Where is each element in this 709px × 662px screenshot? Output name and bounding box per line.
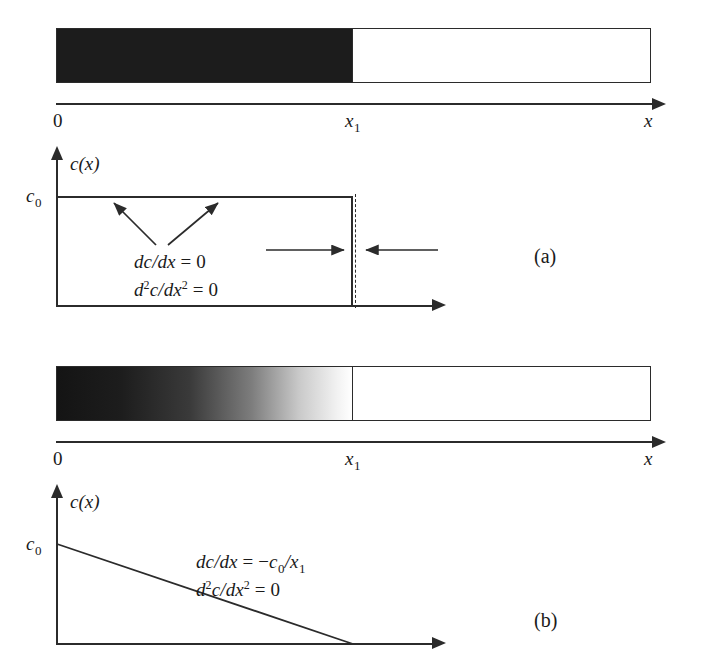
position-axis-a-x1-subscript: 1 [353, 120, 360, 135]
panel-a: 0 x1 x c(x) c0 [0, 0, 709, 340]
plot-b-eq2-equals: = [250, 579, 271, 600]
plot-a-eq2-equals: = [188, 279, 209, 300]
specimen-bar-a [56, 28, 651, 83]
plot-b-eq1-x-subscript: 1 [299, 561, 306, 576]
concentration-plot-b: c(x) c0 dc/dx = −c0/x1 d2c/dx2 = 0 (b) [56, 488, 676, 658]
plot-b-eq1-equals: = [238, 551, 259, 572]
position-axis-b-arrowhead [652, 436, 666, 448]
plot-b-eq2-rhs: 0 [270, 579, 280, 600]
plot-a-eq2-rhs: 0 [208, 279, 218, 300]
position-axis-b-end-label: x [644, 449, 652, 468]
plot-a-eq1-lhs: dc/dx [134, 251, 176, 272]
concentration-plot-a: c(x) c0 [56, 150, 676, 320]
position-axis-a-arrowhead [652, 98, 666, 110]
plot-a-eq2-d: d [134, 279, 144, 300]
position-axis-b-line [56, 441, 653, 443]
plot-a-equation-first-derivative: dc/dx = 0 [134, 248, 206, 276]
plot-a-eq2-lhs-rest: c/dx [150, 279, 182, 300]
plot-b-c0-subscript: 0 [34, 543, 41, 558]
position-axis-a: 0 x1 x [56, 103, 666, 105]
position-axis-b-origin-label: 0 [53, 449, 63, 468]
plot-b-eq1-lhs: dc/dx [196, 551, 238, 572]
plot-a-pointer-arrow-right [168, 203, 218, 245]
plot-b-equation-second-derivative: d2c/dx2 = 0 [196, 576, 280, 604]
panel-b-tag: (b) [534, 610, 557, 630]
specimen-bar-b-gradient-region [57, 367, 353, 420]
panel-a-tag: (a) [534, 246, 556, 266]
plot-b-equation-first-derivative: dc/dx = −c0/x1 [196, 548, 306, 578]
panel-b: 0 x1 x c(x) c0 dc/dx = −c0/x1 d2c/dx2 = … [0, 340, 709, 662]
position-axis-a-origin-label: 0 [53, 111, 63, 130]
specimen-bar-a-filled-region [57, 29, 353, 82]
plot-b-eq2-lhs-rest: c/dx [212, 579, 244, 600]
plot-b-eq1-c-subscript: 0 [278, 561, 285, 576]
plot-b-eq2-d: d [196, 579, 206, 600]
position-axis-b: 0 x1 x [56, 441, 666, 443]
specimen-bar-b [56, 366, 651, 421]
plot-a-c0-tick-label: c0 [26, 186, 41, 209]
position-axis-b-x1-label: x1 [345, 449, 360, 472]
position-axis-a-end-label: x [644, 111, 652, 130]
plot-a-eq1-equals: = [176, 251, 197, 272]
plot-a-equation-second-derivative: d2c/dx2 = 0 [134, 276, 218, 304]
plot-b-eq1-x: x [290, 551, 299, 572]
plot-b-eq1-sign: − [258, 551, 269, 572]
plot-a-eq1-rhs: 0 [196, 251, 206, 272]
position-axis-a-x1-label: x1 [345, 111, 360, 134]
position-axis-a-line [56, 103, 653, 105]
plot-b-c0-tick-label: c0 [26, 534, 41, 557]
plot-b-eq1-c: c [269, 551, 278, 572]
position-axis-b-x1-subscript: 1 [353, 458, 360, 473]
plot-a-pointer-arrow-left [114, 203, 156, 245]
plot-b-profile-line [56, 488, 676, 658]
plot-a-c0-subscript: 0 [34, 195, 41, 210]
diffusion-figure: 0 x1 x c(x) c0 [0, 0, 709, 662]
